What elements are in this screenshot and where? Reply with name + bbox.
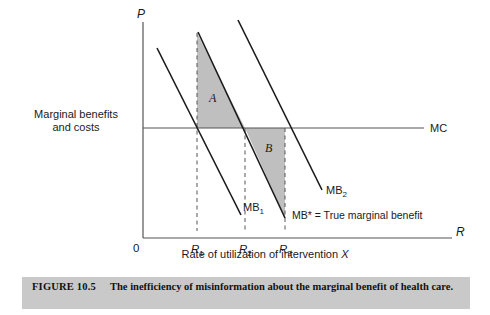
y-axis-symbol: P: [137, 7, 145, 21]
x-axis-label-text: Rate of utilization of intervention: [182, 248, 342, 260]
mc-label: MC: [430, 122, 447, 134]
area-a-label: A: [208, 91, 217, 105]
figure-caption-band: FIGURE 10.5The inefficiency of misinform…: [22, 277, 470, 309]
mb1-label: MB1: [243, 201, 265, 216]
figure-number: FIGURE 10.5: [32, 281, 110, 294]
y-axis-label: Marginal benefits and costs: [18, 108, 134, 134]
x-axis-label-variable: X: [341, 248, 348, 260]
figure-caption: FIGURE 10.5The inefficiency of misinform…: [32, 281, 462, 294]
figure-caption-text: The inefficiency of misinformation about…: [110, 281, 453, 292]
x-axis-symbol: R: [456, 225, 465, 239]
x-axis-label: Rate of utilization of intervention X: [120, 248, 410, 260]
y-axis-label-line1: Marginal benefits: [18, 108, 134, 121]
mb2-label: MB2: [326, 184, 348, 199]
area-b-label: B: [265, 141, 273, 155]
y-axis-label-line2: and costs: [18, 121, 134, 134]
mb-star-note: MB* = True marginal benefit: [292, 209, 423, 221]
figure-container: P R 0 MC MB1 MB2 MB* = True marginal ben…: [0, 0, 490, 315]
